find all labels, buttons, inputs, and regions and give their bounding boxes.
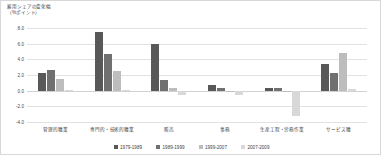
bar-slot <box>283 28 291 122</box>
bar[interactable] <box>169 88 177 90</box>
bar[interactable] <box>339 53 347 91</box>
y-axis-tick-label: 2.0 <box>18 73 24 78</box>
bar-slot <box>208 28 216 122</box>
bar-slot <box>265 28 273 122</box>
bar-slot <box>65 28 73 122</box>
chart-container: 雇用シェアの変化幅 （%ポイント） 8.06.04.02.00.0-2.0-4.… <box>0 0 381 155</box>
gridline <box>27 122 367 123</box>
bar[interactable] <box>292 91 300 116</box>
bar-slot <box>104 28 112 122</box>
legend-label: 1979-1989 <box>120 145 142 150</box>
legend-label: 1989-1999 <box>163 145 185 150</box>
y-axis-tick-label: 6.0 <box>18 41 24 46</box>
bar-slot <box>169 28 177 122</box>
legend-swatch-icon <box>114 145 118 149</box>
bar[interactable] <box>178 91 186 95</box>
bar[interactable] <box>38 73 46 90</box>
bar-group <box>84 28 141 122</box>
bar[interactable] <box>274 88 282 91</box>
x-axis-label: 管理的職業 <box>27 125 84 135</box>
y-axis-tick-label: 0.0 <box>18 88 24 93</box>
bar-slot <box>217 28 225 122</box>
legend-label: 2007-2009 <box>247 145 269 150</box>
bar[interactable] <box>208 85 216 90</box>
x-axis-labels: 管理的職業専門的・技術的職業販売事務生産工程・労務作業サービス職 <box>27 125 367 135</box>
bar-slot <box>348 28 356 122</box>
y-axis-tick-label: 8.0 <box>18 26 24 31</box>
bar[interactable] <box>330 73 338 91</box>
bar-slot <box>95 28 103 122</box>
bar-slot <box>292 28 300 122</box>
legend-item[interactable]: 1989-1999 <box>156 145 184 150</box>
x-axis-label: 販売 <box>140 125 197 135</box>
bar[interactable] <box>151 44 159 90</box>
bar[interactable] <box>217 88 225 90</box>
bar-group <box>27 28 84 122</box>
bar-slot <box>321 28 329 122</box>
x-axis-label: 専門的・技術的職業 <box>84 125 141 135</box>
bar-slot <box>235 28 243 122</box>
legend-item[interactable]: 1999-2007 <box>199 145 227 150</box>
legend-item[interactable]: 2007-2009 <box>241 145 269 150</box>
bar-slot <box>274 28 282 122</box>
bar-slot <box>330 28 338 122</box>
legend-label: 1999-2007 <box>205 145 227 150</box>
bar-slot <box>178 28 186 122</box>
bar-slot <box>122 28 130 122</box>
bar[interactable] <box>47 70 55 91</box>
bar[interactable] <box>321 64 329 91</box>
bar-group <box>197 28 254 122</box>
plot-area: 8.06.04.02.00.0-2.0-4.0 <box>27 28 367 122</box>
legend-swatch-icon <box>156 145 160 149</box>
legend-swatch-icon <box>199 145 203 149</box>
y-axis-tick-label: 4.0 <box>18 57 24 62</box>
bar[interactable] <box>283 91 291 92</box>
bar-slot <box>47 28 55 122</box>
bar[interactable] <box>265 88 273 90</box>
bar-slot <box>226 28 234 122</box>
bar[interactable] <box>160 80 168 90</box>
bar[interactable] <box>113 71 121 91</box>
bar[interactable] <box>104 54 112 91</box>
chart-legend: 1979-19891989-19991999-20072007-2009 <box>1 141 381 153</box>
bar[interactable] <box>122 90 130 91</box>
bar-group <box>254 28 311 122</box>
x-axis-label: 生産工程・労務作業 <box>254 125 311 135</box>
bar[interactable] <box>348 89 356 91</box>
bar-slot <box>113 28 121 122</box>
bar[interactable] <box>235 91 243 96</box>
bar-group <box>140 28 197 122</box>
legend-swatch-icon <box>241 145 245 149</box>
bar-slot <box>160 28 168 122</box>
bar-groups <box>27 28 367 122</box>
legend-item[interactable]: 1979-1989 <box>114 145 142 150</box>
chart-axis-title: 雇用シェアの変化幅 （%ポイント） <box>7 4 51 16</box>
bar[interactable] <box>56 79 64 91</box>
bar-slot <box>56 28 64 122</box>
x-axis-label: サービス職 <box>310 125 367 135</box>
y-axis-tick-label: -4.0 <box>16 120 24 125</box>
bar-slot <box>38 28 46 122</box>
x-axis-label: 事務 <box>197 125 254 135</box>
bar-group <box>310 28 367 122</box>
bar[interactable] <box>95 32 103 91</box>
bar-slot <box>151 28 159 122</box>
y-axis-tick-label: -2.0 <box>16 104 24 109</box>
bar-slot <box>339 28 347 122</box>
